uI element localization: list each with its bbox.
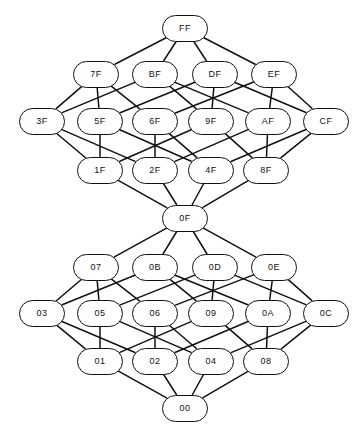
lattice-node-bf[interactable]: BF <box>132 61 178 88</box>
lattice-node-03[interactable]: 03 <box>19 300 65 327</box>
lattice-edge <box>164 42 176 61</box>
lattice-node-label: 8F <box>260 165 271 174</box>
lattice-node-label: 2F <box>149 165 160 174</box>
lattice-node-7f[interactable]: 7F <box>73 61 119 88</box>
lattice-node-label: CF <box>320 116 333 125</box>
lattice-node-0e[interactable]: 0E <box>251 254 297 281</box>
lattice-node-label: 06 <box>150 308 161 317</box>
lattice-node-label: 6F <box>149 116 160 125</box>
lattice-node-05[interactable]: 05 <box>77 300 123 327</box>
lattice-node-5f[interactable]: 5F <box>77 108 123 135</box>
lattice-edge <box>118 371 166 398</box>
lattice-edge <box>192 375 203 395</box>
lattice-node-label: 5F <box>94 116 105 125</box>
lattice-node-label: 0F <box>179 213 190 222</box>
lattice-node-0d[interactable]: 0D <box>192 254 238 281</box>
lattice-edge <box>281 325 310 349</box>
lattice-edge <box>193 232 206 254</box>
lattice-node-cf[interactable]: CF <box>303 108 349 135</box>
lattice-node-0a[interactable]: 0A <box>245 300 291 327</box>
lattice-node-label: EF <box>268 69 280 78</box>
lattice-node-label: BF <box>149 69 161 78</box>
lattice-node-label: FF <box>179 23 191 32</box>
lattice-edge <box>288 280 311 301</box>
lattice-node-label: 3F <box>36 116 47 125</box>
lattice-node-label: 0A <box>262 308 274 317</box>
lattice-node-label: AF <box>262 116 274 125</box>
lattice-node-df[interactable]: DF <box>192 61 238 88</box>
lattice-node-04[interactable]: 04 <box>188 348 234 375</box>
lattice-node-ef[interactable]: EF <box>251 61 297 88</box>
lattice-node-label: 03 <box>37 308 48 317</box>
lattice-node-label: 00 <box>180 403 191 412</box>
lattice-node-af[interactable]: AF <box>245 108 291 135</box>
lattice-node-02[interactable]: 02 <box>132 348 178 375</box>
lattice-node-label: 9F <box>205 116 216 125</box>
lattice-edge <box>57 133 86 157</box>
lattice-node-label: 05 <box>95 308 106 317</box>
lattice-edge <box>203 371 248 397</box>
lattice-edge <box>203 181 248 208</box>
lattice-node-ff[interactable]: FF <box>162 15 208 42</box>
lattice-node-00[interactable]: 00 <box>162 395 208 422</box>
lattice-node-label: 08 <box>261 356 272 365</box>
lattice-node-07[interactable]: 07 <box>73 254 119 281</box>
lattice-edge <box>192 184 203 205</box>
lattice-node-label: 7F <box>90 69 101 78</box>
lattice-node-0c[interactable]: 0C <box>303 300 349 327</box>
lattice-node-label: 0E <box>268 262 280 271</box>
lattice-node-label: 0B <box>149 262 161 271</box>
lattice-node-label: 04 <box>206 356 217 365</box>
lattice-node-1f[interactable]: 1F <box>77 157 123 184</box>
lattice-edge <box>288 87 312 109</box>
lattice-node-label: 01 <box>95 356 106 365</box>
lattice-node-3f[interactable]: 3F <box>19 108 65 135</box>
lattice-node-2f[interactable]: 2F <box>132 157 178 184</box>
lattice-node-label: 0D <box>209 262 221 271</box>
lattice-edge <box>114 228 166 257</box>
lattice-node-9f[interactable]: 9F <box>188 108 234 135</box>
lattice-edge <box>111 86 139 109</box>
lattice-edge <box>118 180 167 207</box>
lattice-edge <box>56 87 81 109</box>
lattice-node-06[interactable]: 06 <box>132 300 178 327</box>
lattice-node-0b[interactable]: 0B <box>132 254 178 281</box>
lattice-node-09[interactable]: 09 <box>188 300 234 327</box>
lattice-node-label: 0C <box>320 308 332 317</box>
lattice-diagram: FF7FBFDFEF3F5F6F9FAFCF1F2F4F8F0F070B0D0E… <box>0 0 363 430</box>
lattice-node-8f[interactable]: 8F <box>243 157 289 184</box>
lattice-node-label: 07 <box>91 262 102 271</box>
lattice-node-label: DF <box>209 69 222 78</box>
lattice-edge <box>203 228 255 257</box>
lattice-edge <box>281 133 311 157</box>
lattice-node-label: 02 <box>150 356 161 365</box>
lattice-node-01[interactable]: 01 <box>77 348 123 375</box>
lattice-node-label: 1F <box>94 165 105 174</box>
lattice-node-08[interactable]: 08 <box>243 348 289 375</box>
lattice-node-0f[interactable]: 0F <box>162 205 208 232</box>
lattice-edge <box>194 42 206 61</box>
lattice-node-label: 4F <box>205 165 216 174</box>
lattice-edge <box>164 375 177 395</box>
lattice-edge <box>163 232 176 254</box>
lattice-edge <box>163 184 176 205</box>
lattice-node-label: 09 <box>206 308 217 317</box>
lattice-node-4f[interactable]: 4F <box>188 157 234 184</box>
lattice-node-6f[interactable]: 6F <box>132 108 178 135</box>
lattice-edge <box>57 279 82 300</box>
